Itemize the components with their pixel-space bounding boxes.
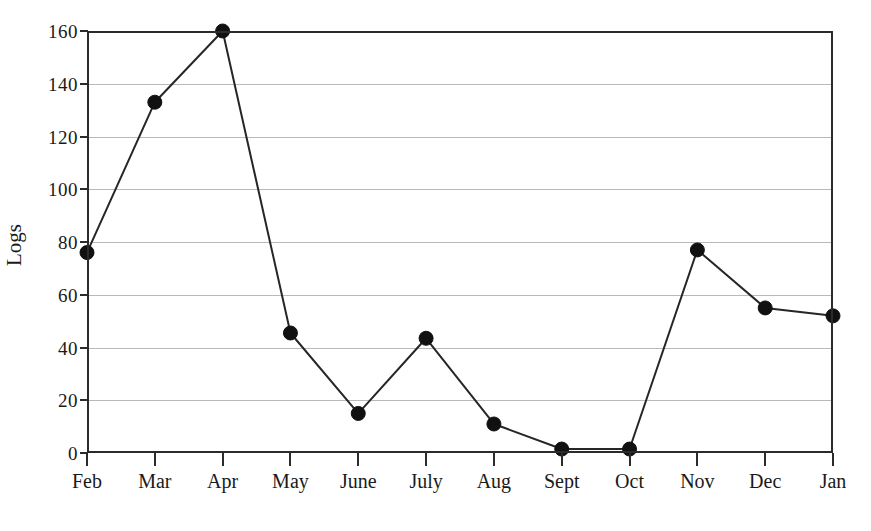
x-tick-label-aug: Aug [477,470,511,492]
y-tick-label-140: 140 [48,74,78,93]
data-point-july [419,331,433,345]
x-tick-label-oct: Oct [615,470,644,492]
data-point-apr [216,24,230,38]
y-axis-tick-labels: 020406080100120140160 [0,0,78,531]
x-tick-mark-feb [86,453,88,466]
x-tick-mark-aug [493,453,495,466]
y-tick-label-100: 100 [48,180,78,199]
data-point-aug [487,417,501,431]
y-tick-label-160: 160 [48,22,78,41]
x-tick-label-apr: Apr [207,470,238,492]
y-tick-label-40: 40 [58,338,78,357]
data-point-may [283,326,297,340]
x-tick-label-feb: Feb [72,470,102,492]
x-tick-mark-dec [764,453,766,466]
y-tick-label-0: 0 [68,444,78,463]
y-tick-label-20: 20 [58,391,78,410]
y-tick-label-60: 60 [58,285,78,304]
x-tick-label-jan: Jan [820,470,847,492]
data-point-dec [758,301,772,315]
data-point-june [351,406,365,420]
data-point-mar [148,95,162,109]
x-tick-mark-nov [696,453,698,466]
x-tick-label-nov: Nov [680,470,714,492]
x-tick-label-july: July [409,470,442,492]
x-tick-label-dec: Dec [749,470,781,492]
x-tick-label-sept: Sept [544,470,580,492]
y-tick-label-80: 80 [58,233,78,252]
x-tick-label-may: May [272,470,309,492]
data-point-feb [80,246,94,260]
series-logs [87,31,833,453]
y-tick-label-120: 120 [48,127,78,146]
series-line [87,31,833,449]
x-tick-mark-june [357,453,359,466]
data-point-jan [826,309,840,323]
x-tick-mark-july [425,453,427,466]
x-tick-mark-apr [222,453,224,466]
data-point-nov [690,243,704,257]
x-tick-label-june: June [340,470,377,492]
plot-area [87,31,833,453]
x-tick-label-mar: Mar [138,470,171,492]
x-tick-mark-sept [561,453,563,466]
series-markers [80,24,840,456]
x-tick-mark-jan [832,453,834,466]
chart-page: Logs 020406080100120140160 FebMarAprMayJ… [0,0,871,531]
x-tick-mark-oct [629,453,631,466]
x-tick-mark-mar [154,453,156,466]
x-tick-mark-may [289,453,291,466]
